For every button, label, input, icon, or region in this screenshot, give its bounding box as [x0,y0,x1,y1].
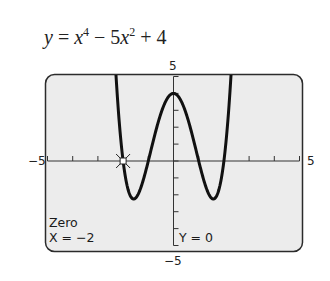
x-readout: X = −2 [49,232,94,245]
mode-label: Zero [49,217,78,230]
y-readout: Y = 0 [179,232,213,245]
